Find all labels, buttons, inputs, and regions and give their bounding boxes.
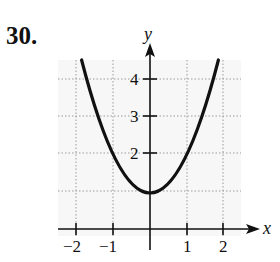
x-axis-label: x [262, 218, 271, 238]
parabola-chart: y x 4 3 2 −2 −1 1 2 [0, 0, 280, 262]
y-tick-label-3: 3 [130, 107, 139, 126]
x-tick-label-neg2: −2 [63, 237, 81, 256]
y-axis-label: y [142, 24, 152, 44]
x-tick-label-neg1: −1 [99, 237, 117, 256]
x-tick-label-2: 2 [219, 237, 228, 256]
x-tick-label-1: 1 [183, 237, 192, 256]
y-tick-label-4: 4 [130, 70, 139, 89]
y-tick-label-2: 2 [130, 144, 139, 163]
